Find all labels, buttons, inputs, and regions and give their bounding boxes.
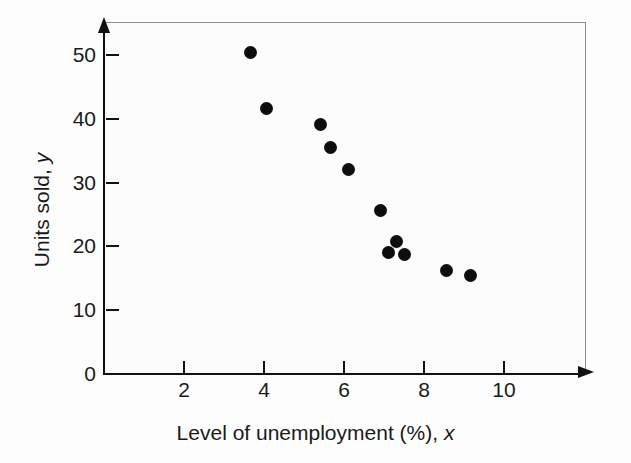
x-tick-label: 8 [399, 379, 449, 400]
data-point [260, 102, 273, 115]
y-tick-label: 0 [36, 363, 96, 384]
y-tick-mark [106, 309, 119, 311]
data-point [382, 246, 395, 259]
x-tick-label: 4 [239, 379, 289, 400]
y-axis-title-text: Units sold, [30, 169, 53, 267]
x-tick-label: 10 [479, 379, 529, 400]
y-tick-mark [106, 54, 119, 56]
x-tick-label: 6 [319, 379, 369, 400]
plot-area-frame [104, 22, 586, 374]
x-tick-mark [343, 361, 345, 374]
data-point [398, 248, 411, 261]
y-tick-label: 50 [36, 44, 96, 65]
data-point [440, 264, 453, 277]
y-tick-mark [106, 182, 119, 184]
x-tick-mark [503, 361, 505, 374]
data-point [324, 141, 337, 154]
x-tick-mark [263, 361, 265, 374]
x-axis-title-text: Level of unemployment (%), [177, 421, 438, 444]
scatter-plot-figure: 01020304050 246810 Level of unemployment… [0, 0, 631, 463]
y-axis-title: Units sold, y [30, 80, 54, 340]
data-point [244, 46, 257, 59]
data-point [464, 269, 477, 282]
x-axis-title-symbol: x [444, 421, 455, 444]
data-point [314, 118, 327, 131]
data-point [374, 204, 387, 217]
x-axis-arrow-icon [578, 366, 594, 378]
y-tick-mark [106, 245, 119, 247]
x-tick-mark [423, 361, 425, 374]
y-tick-mark [106, 118, 119, 120]
data-point [342, 163, 355, 176]
y-axis-title-symbol: y [30, 153, 53, 164]
y-axis-arrow-icon [98, 17, 110, 33]
x-tick-mark [183, 361, 185, 374]
x-axis-title: Level of unemployment (%), x [0, 421, 631, 445]
x-tick-label: 2 [159, 379, 209, 400]
y-axis-line [103, 30, 105, 375]
